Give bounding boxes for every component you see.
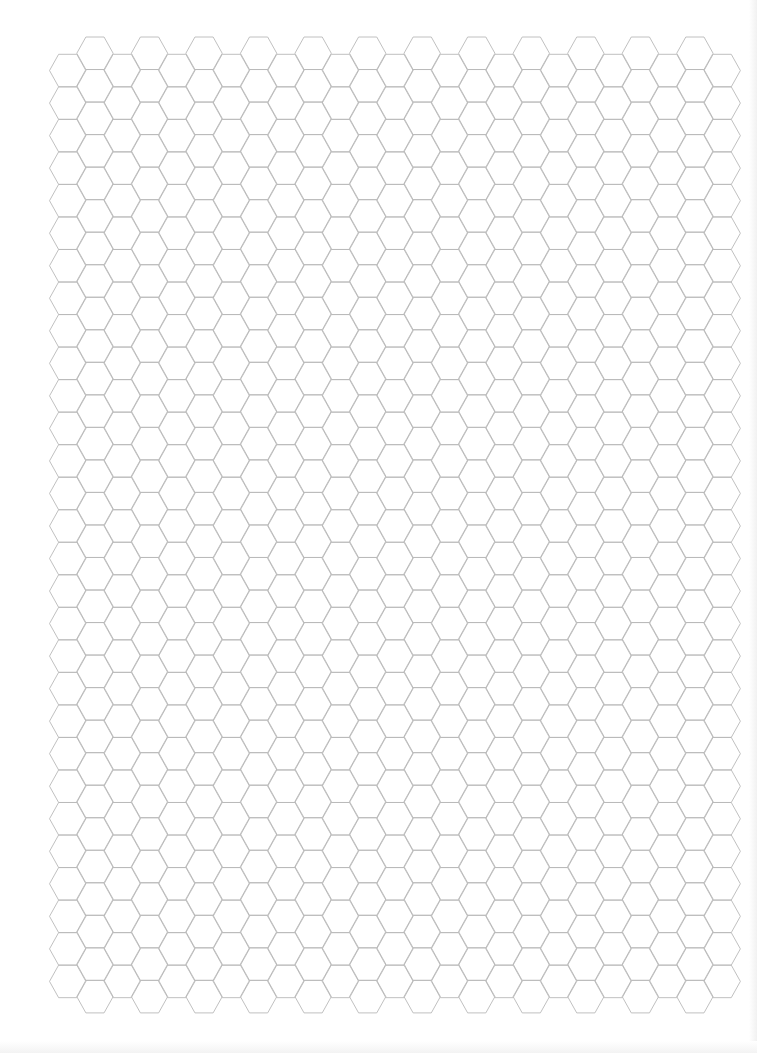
page-edge-shadow-bottom: [0, 1041, 757, 1053]
hexagon-grid: [0, 0, 757, 1053]
graph-paper-page: [0, 0, 757, 1053]
hexagon-grid-lines: [50, 37, 741, 1013]
page-edge-shadow-right: [749, 0, 757, 1053]
